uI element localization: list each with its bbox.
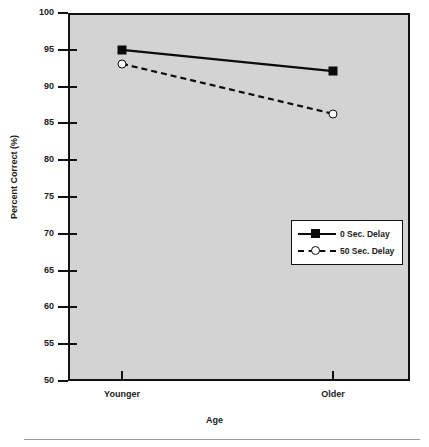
y-tick-label: 95 — [26, 44, 54, 54]
legend-key-open-circle-icon — [297, 244, 337, 257]
y-tick-mark-inner — [70, 122, 77, 124]
y-tick-mark — [58, 343, 68, 345]
data-point-marker — [118, 45, 127, 54]
y-tick-mark — [58, 159, 68, 161]
y-tick-mark-inner — [70, 270, 77, 272]
y-tick-label: 65 — [26, 265, 54, 275]
y-tick-label: 75 — [26, 191, 54, 201]
legend-label-1: 50 Sec. Delay — [337, 246, 394, 256]
y-axis-title: Percent Correct (%) — [9, 117, 19, 237]
y-tick-mark-inner — [70, 159, 77, 161]
legend: 0 Sec. Delay 50 Sec. Delay — [291, 220, 403, 265]
plot-area — [68, 13, 410, 381]
data-point-marker — [329, 109, 338, 118]
data-point-marker — [118, 59, 127, 68]
y-tick-label: 80 — [26, 154, 54, 164]
y-tick-label: 60 — [26, 301, 54, 311]
x-tick-label: Younger — [82, 389, 162, 399]
x-axis-title: Age — [0, 415, 429, 425]
legend-label-0: 0 Sec. Delay — [337, 229, 390, 239]
y-tick-label: 70 — [26, 228, 54, 238]
x-tick-mark — [332, 371, 334, 381]
y-tick-mark — [58, 86, 68, 88]
y-tick-mark-inner — [70, 49, 77, 51]
legend-key-filled-square-icon — [297, 227, 337, 240]
figure: Percent Correct (%) 10095908580757065605… — [0, 0, 429, 447]
y-tick-mark-inner — [70, 196, 77, 198]
legend-item-1: 50 Sec. Delay — [297, 242, 397, 259]
y-tick-mark — [58, 122, 68, 124]
y-tick-mark-inner — [70, 343, 77, 345]
y-tick-label: 55 — [26, 338, 54, 348]
y-tick-mark — [58, 380, 68, 382]
legend-item-0: 0 Sec. Delay — [297, 225, 397, 242]
x-tick-label: Older — [293, 389, 373, 399]
y-tick-mark — [58, 12, 68, 14]
y-tick-label: 100 — [26, 7, 54, 17]
y-tick-label: 50 — [26, 375, 54, 385]
y-tick-mark — [58, 270, 68, 272]
x-tick-mark — [121, 371, 123, 381]
y-tick-mark-inner — [70, 306, 77, 308]
y-tick-mark — [58, 306, 68, 308]
y-tick-label: 90 — [26, 81, 54, 91]
y-tick-mark — [58, 233, 68, 235]
y-tick-label: 85 — [26, 117, 54, 127]
y-tick-mark — [58, 196, 68, 198]
y-tick-mark — [58, 49, 68, 51]
y-tick-mark-inner — [70, 233, 77, 235]
y-tick-mark-inner — [70, 86, 77, 88]
footer-divider — [24, 439, 420, 440]
data-point-marker — [329, 67, 338, 76]
